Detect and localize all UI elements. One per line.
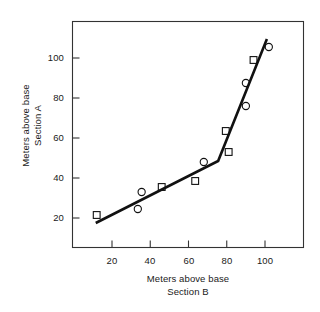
circle-data-points — [134, 43, 272, 212]
y-tick-label-40: 40 — [38, 173, 64, 183]
x-tick-label-60: 60 — [184, 256, 195, 266]
y-tick-label-100: 100 — [33, 53, 64, 63]
data-point-circle-5 — [265, 43, 272, 50]
data-point-circle-4 — [242, 102, 249, 109]
data-point-circle-2 — [200, 158, 207, 165]
y-tick-label-20: 20 — [38, 213, 64, 223]
x-tick-label-80: 80 — [222, 256, 233, 266]
square-data-points — [93, 57, 257, 219]
fit-polyline — [96, 39, 267, 223]
trend-line — [96, 39, 267, 223]
chart-figure: Section A Meters above base Meters above… — [0, 0, 320, 312]
x-axis-title-line-1: Meters above base — [72, 272, 304, 285]
data-point-square-0 — [93, 212, 100, 219]
y-tick-label-80: 80 — [38, 93, 64, 103]
x-axis-title: Meters above base Section B — [72, 272, 304, 298]
x-tick-label-100: 100 — [257, 256, 273, 266]
x-tick-label-20: 20 — [107, 256, 118, 266]
x-tick-label-40: 40 — [145, 256, 156, 266]
data-point-square-4 — [225, 149, 232, 156]
data-point-square-2 — [192, 178, 199, 185]
data-point-circle-1 — [134, 205, 141, 212]
x-axis-title-line-2: Section B — [72, 285, 304, 298]
data-point-circle-0 — [138, 188, 145, 195]
plot-frame — [73, 22, 304, 248]
y-tick-label-60: 60 — [38, 133, 64, 143]
data-point-square-5 — [250, 57, 257, 64]
